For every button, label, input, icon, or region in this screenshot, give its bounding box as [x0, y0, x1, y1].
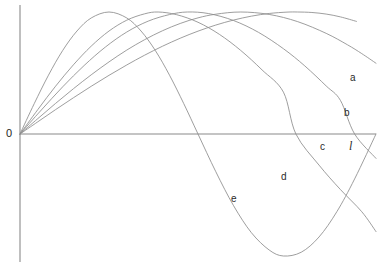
label-e: e: [231, 194, 237, 204]
label-a: a: [350, 73, 356, 83]
curve-d: [20, 12, 376, 232]
label-c: c: [320, 142, 325, 152]
curve-plot: [0, 0, 379, 266]
label-d: d: [281, 172, 287, 182]
curve-a: [20, 12, 356, 134]
origin-label: 0: [6, 128, 12, 139]
curve-b: [20, 12, 376, 134]
curve-c: [20, 12, 376, 158]
label-b: b: [344, 108, 350, 118]
figure-container: 0 abclde: [0, 0, 379, 266]
label-l: l: [349, 140, 352, 152]
